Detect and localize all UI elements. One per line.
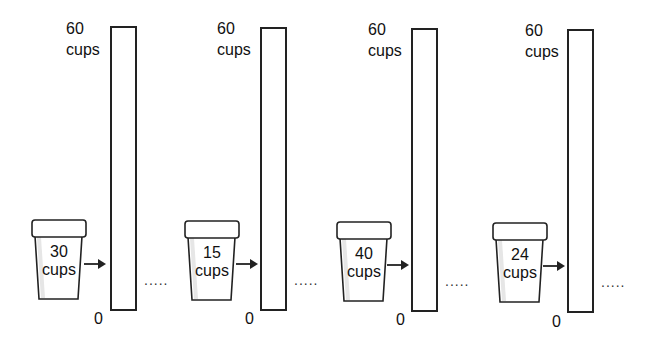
max-value: 60	[525, 20, 559, 41]
panel-4: 60 cups 0 ..... 24 cups	[0, 0, 659, 353]
continuation-dots: .....	[601, 274, 625, 290]
bar-max-label: 60 cups	[525, 20, 559, 62]
max-unit: cups	[525, 41, 559, 62]
arrow-icon	[543, 259, 567, 273]
cup-label: 24 cups	[492, 246, 548, 282]
cup-value: 24	[492, 246, 548, 264]
bar-zero-label: 0	[552, 313, 561, 331]
scale-bar	[567, 29, 594, 313]
cup-unit: cups	[492, 264, 548, 282]
cup-icon: 24 cups	[492, 222, 548, 306]
